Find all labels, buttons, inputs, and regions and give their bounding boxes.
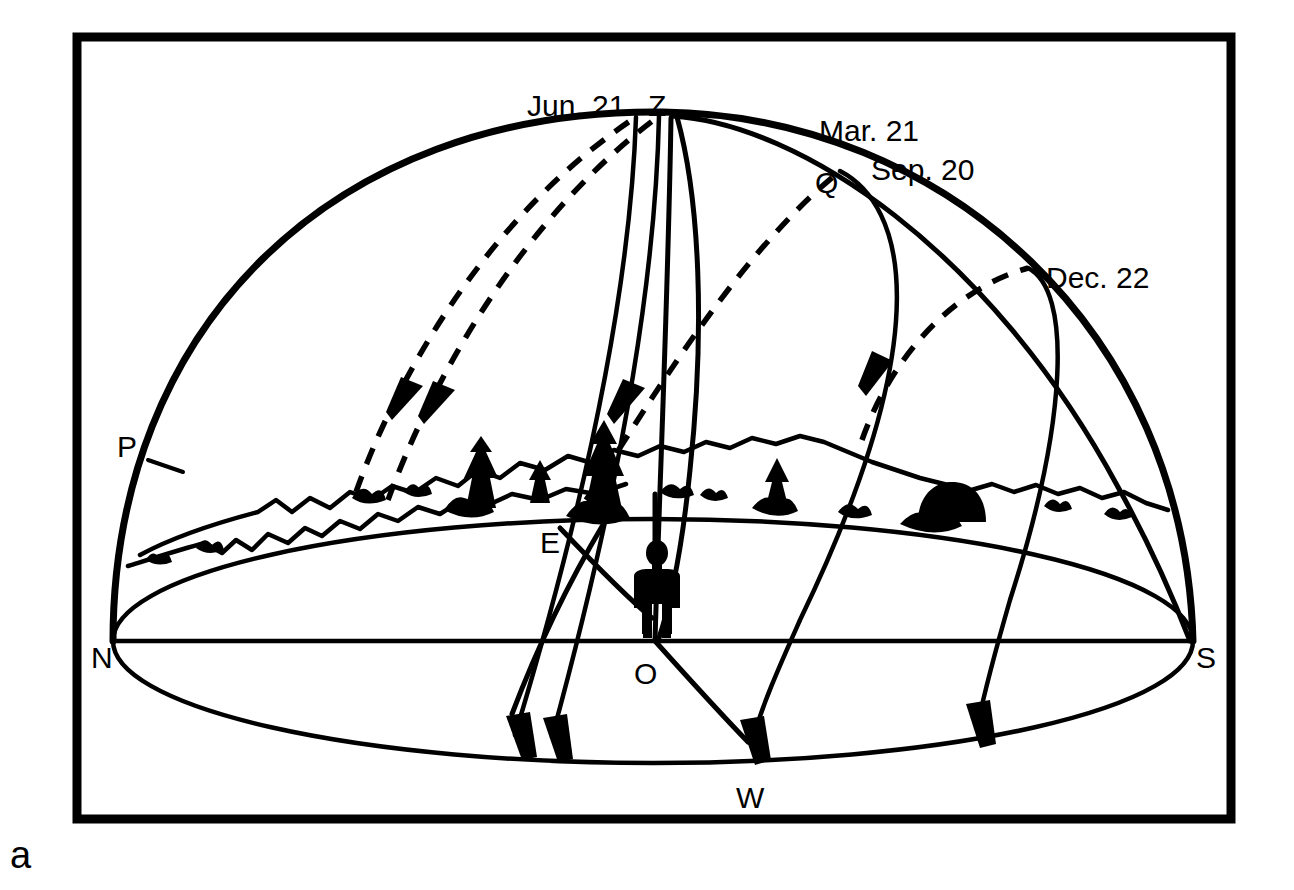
label-q: Q bbox=[815, 166, 838, 199]
label-east: E bbox=[540, 526, 560, 559]
arrowhead-jun21-a-rising bbox=[386, 377, 423, 420]
label-mar-21: Mar. 21 bbox=[819, 114, 919, 147]
label-zenith: Z bbox=[648, 89, 666, 122]
label-jun-21: Jun. 21 bbox=[527, 89, 625, 122]
sun-path-equinox-solid bbox=[752, 171, 897, 742]
figure-caption-letter: a bbox=[10, 834, 32, 876]
label-p: P bbox=[117, 430, 137, 463]
label-dec-22: Dec. 22 bbox=[1046, 261, 1149, 294]
label-sep-20: Sep. 20 bbox=[871, 153, 974, 186]
pole-leader-line bbox=[148, 460, 183, 472]
arrowhead-jun21-b-setting bbox=[543, 714, 573, 762]
figure-root: Jun. 21 Z Mar. 21 Sep. 20 Q Dec. 22 P E … bbox=[0, 0, 1294, 890]
celestial-sphere-diagram: Jun. 21 Z Mar. 21 Sep. 20 Q Dec. 22 P E … bbox=[0, 0, 1294, 890]
arrowhead-jun21-b-rising bbox=[418, 381, 455, 424]
label-north: N bbox=[91, 641, 113, 674]
meridian-to-west bbox=[655, 641, 748, 742]
arrowhead-jun21-a-setting bbox=[506, 712, 537, 760]
celestial-equator-limb bbox=[672, 116, 1190, 641]
label-south: S bbox=[1196, 641, 1216, 674]
label-observer: O bbox=[634, 657, 657, 690]
figure-border bbox=[77, 37, 1231, 819]
label-west: W bbox=[736, 781, 765, 814]
sun-path-dec22-dashed bbox=[862, 268, 1028, 440]
